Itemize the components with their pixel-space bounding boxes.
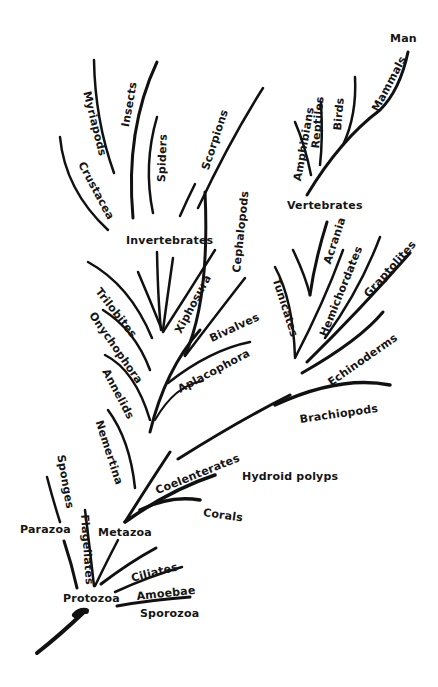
trunk-upper-to-deuterostomes: [178, 395, 290, 459]
label-vertebrates: Vertebrates: [287, 200, 363, 211]
root-branch: [37, 612, 84, 653]
phylogenetic-tree-diagram: Man Mammals Birds Reptiles Amphibians Ve…: [0, 0, 438, 687]
label-invertebrates: Invertebrates: [126, 235, 213, 246]
label-protozoa: Protozoa: [63, 593, 120, 604]
branch-parazoa: [64, 541, 77, 588]
branch-acrania-left: [293, 250, 310, 295]
branch-corals: [140, 499, 200, 510]
label-birds: Birds: [332, 97, 346, 131]
label-metazoa: Metazoa: [98, 527, 152, 538]
branch-scorpions-short: [180, 184, 195, 216]
label-parazoa: Parazoa: [20, 524, 71, 535]
label-man: Man: [390, 33, 417, 44]
label-spiders: Spiders: [156, 134, 169, 183]
branch-sponges: [47, 477, 60, 522]
label-hydroid-polyps: Hydroid polyps: [242, 471, 338, 482]
label-sporozoa: Sporozoa: [140, 608, 199, 619]
